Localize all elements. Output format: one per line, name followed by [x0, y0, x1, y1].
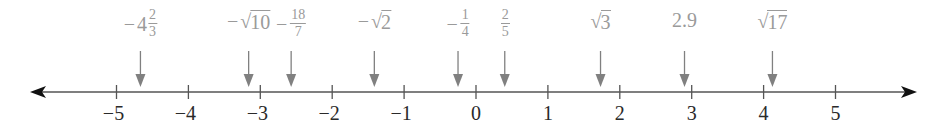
radicand: 3	[601, 10, 611, 32]
tick-label: 1	[543, 103, 553, 123]
minus-sign: −	[227, 11, 238, 31]
numerator: 1	[461, 8, 470, 24]
down-arrow-icon	[135, 74, 145, 87]
tick-label: 2	[615, 103, 625, 123]
down-arrow-icon	[680, 74, 690, 87]
down-arrow-icon	[244, 74, 254, 87]
whole-part: 4	[137, 14, 147, 34]
numerator: 18	[290, 8, 306, 24]
tick-label: 0	[471, 103, 481, 123]
down-arrow-icon	[369, 74, 379, 87]
denominator: 4	[462, 24, 469, 39]
numerator: 2	[148, 8, 157, 24]
decimal-value: 2.9	[672, 10, 697, 30]
denominator: 5	[502, 24, 509, 39]
number-line-diagram: −5−4−3−2−1012345 −423−√10−187−√2−1425√32…	[0, 0, 952, 133]
radicand: 17	[767, 10, 787, 32]
tick-label: −1	[390, 103, 411, 123]
point-label-2-5: 25	[500, 8, 510, 39]
fraction: 25	[501, 8, 510, 39]
denominator: 7	[295, 24, 302, 39]
point-label-neg-sqrt-2: −√2	[358, 10, 391, 32]
minus-sign: −	[358, 11, 369, 31]
fraction: 14	[461, 8, 470, 39]
tick-label: −2	[319, 103, 340, 123]
denominator: 3	[149, 24, 156, 39]
radicand: 10	[250, 10, 270, 32]
down-arrow-icon	[453, 74, 463, 87]
tick-label: −4	[175, 103, 196, 123]
numerator: 2	[501, 8, 510, 24]
down-arrow-icon	[767, 74, 777, 87]
minus-sign: −	[276, 14, 287, 34]
tick-label: 5	[831, 103, 841, 123]
point-label-2-9: 2.9	[672, 10, 697, 30]
radicand: 2	[381, 10, 391, 32]
down-arrow-icon	[596, 74, 606, 87]
point-label-neg-1-4: −14	[446, 8, 469, 39]
point-label-sqrt-17: √17	[757, 10, 787, 32]
tick-label: −5	[103, 103, 124, 123]
point-label-sqrt-3: √3	[591, 10, 611, 32]
minus-sign: −	[446, 14, 457, 34]
point-label-neg-sqrt-10: −√10	[227, 10, 270, 32]
tick-label: −3	[247, 103, 268, 123]
fraction: 187	[290, 8, 306, 39]
down-arrow-icon	[286, 74, 296, 87]
fraction: 23	[148, 8, 157, 39]
minus-sign: −	[124, 14, 135, 34]
point-label-neg-18-7: −187	[276, 8, 306, 39]
tick-label: 3	[687, 103, 697, 123]
tick-label: 4	[759, 103, 769, 123]
point-label-neg-4-2-3: −423	[124, 8, 157, 39]
down-arrow-icon	[500, 74, 510, 87]
